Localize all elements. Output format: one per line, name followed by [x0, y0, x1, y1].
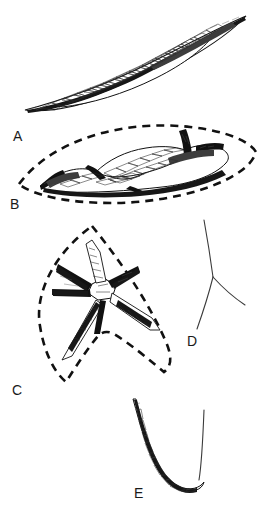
panel-label-b: B: [10, 197, 20, 211]
panel-label-d: D: [187, 334, 197, 348]
panel-label-a: A: [13, 129, 23, 143]
plate-artwork: [0, 0, 271, 511]
panel-label-e: E: [134, 486, 144, 500]
panel-label-c: C: [12, 383, 22, 397]
illustration-plate: A B C D E: [0, 0, 271, 511]
